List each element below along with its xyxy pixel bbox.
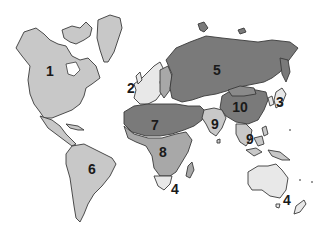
region-label-7: 7: [151, 118, 159, 132]
region-label-4-south-africa: 4: [171, 182, 179, 196]
region-6-latin-america: [66, 144, 116, 222]
region-label-2: 2: [127, 81, 135, 95]
region-central-america: [40, 116, 76, 146]
pacific-island: [311, 181, 313, 183]
region-caribbean: [66, 124, 84, 130]
region-sri-lanka: [217, 139, 220, 143]
pacific-island: [289, 129, 291, 131]
region-madagascar: [186, 162, 194, 178]
region-new-zealand: [294, 200, 306, 214]
region-label-6: 6: [88, 162, 96, 176]
region-russia-islands: [198, 22, 246, 34]
region-label-8: 8: [159, 145, 167, 159]
region-label-9-south-asia: 9: [211, 117, 219, 131]
region-label-3: 3: [276, 95, 284, 109]
region-label-1: 1: [46, 64, 54, 78]
region-tasmania: [276, 204, 280, 208]
region-greenland: [97, 15, 122, 62]
region-4-south-africa: [154, 176, 172, 190]
region-label-9-southeast-asia: 9: [246, 132, 254, 146]
region-indonesia: [254, 126, 290, 160]
region-label-4-australia: 4: [283, 193, 291, 207]
region-4-australia: [248, 164, 288, 198]
region-7-north-africa-middle-east: [124, 104, 206, 136]
pacific-island: [299, 179, 301, 181]
region-canada-arctic: [62, 22, 92, 44]
region-1-north-america: [16, 28, 100, 118]
region-label-5: 5: [213, 63, 221, 77]
region-label-10: 10: [232, 100, 248, 114]
region-kamchatka: [280, 58, 290, 82]
